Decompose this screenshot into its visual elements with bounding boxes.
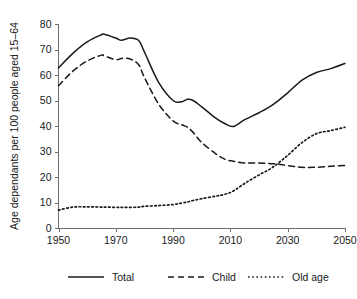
y-axis-title-label: Age dependants per 100 people aged 15–64 (8, 22, 20, 230)
x-tick-group: 195019701990201020302050 (47, 228, 357, 246)
x-tick-label: 2050 (333, 234, 357, 246)
line-chart: Age dependants per 100 people aged 15–64… (0, 0, 357, 299)
series-line-total (59, 34, 346, 127)
y-tick-label: 20 (40, 171, 52, 183)
chart-container: Age dependants per 100 people aged 15–64… (0, 0, 357, 299)
x-tick-label: 1970 (104, 234, 128, 246)
y-tick-group: 01020304050607080 (40, 18, 59, 234)
legend-label-total: Total (112, 271, 134, 283)
series-line-child (59, 55, 346, 168)
y-tick-label: 40 (40, 120, 52, 132)
y-tick-label: 50 (40, 94, 52, 106)
y-axis-title: Age dependants per 100 people aged 15–64 (8, 22, 20, 230)
x-tick-label: 1990 (161, 234, 185, 246)
legend-label-old-age: Old age (292, 271, 329, 283)
legend-label-child: Child (212, 271, 236, 283)
y-tick-label: 70 (40, 43, 52, 55)
y-axis: 01020304050607080 (40, 18, 59, 234)
x-axis: 195019701990201020302050 (47, 228, 357, 246)
x-tick-label: 1950 (47, 234, 71, 246)
y-tick-label: 0 (46, 222, 52, 234)
data-series-group (59, 34, 346, 210)
x-tick-label: 2010 (219, 234, 243, 246)
y-tick-label: 60 (40, 69, 52, 81)
series-line-old-age (59, 127, 346, 210)
chart-legend: TotalChildOld age (68, 271, 329, 283)
y-tick-label: 80 (40, 18, 52, 30)
y-tick-label: 30 (40, 145, 52, 157)
x-tick-label: 2030 (276, 234, 300, 246)
y-tick-label: 10 (40, 196, 52, 208)
